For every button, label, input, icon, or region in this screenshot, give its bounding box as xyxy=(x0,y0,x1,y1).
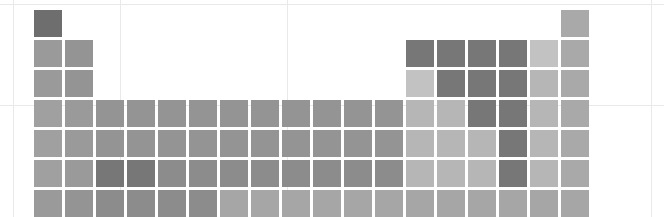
heatmap-cell-te[interactable] xyxy=(499,130,527,157)
heatmap-cell-co[interactable] xyxy=(282,100,310,127)
heatmap-cell-ta[interactable] xyxy=(158,160,186,187)
heatmap-cell-at[interactable] xyxy=(530,160,558,187)
heatmap-cell-v[interactable] xyxy=(158,100,186,127)
heatmap-cell-bi[interactable] xyxy=(468,160,496,187)
heatmap-cell-in[interactable] xyxy=(406,130,434,157)
heatmap-cell-cs[interactable] xyxy=(34,160,62,187)
heatmap-cell-empty xyxy=(406,10,434,37)
heatmap-cell-mn[interactable] xyxy=(220,100,248,127)
heatmap-cell-ba[interactable] xyxy=(65,160,93,187)
heatmap-cell-fl[interactable] xyxy=(437,190,465,217)
heatmap-cell-mc[interactable] xyxy=(468,190,496,217)
heatmap-cell-os[interactable] xyxy=(251,160,279,187)
heatmap-cell-rb[interactable] xyxy=(34,130,62,157)
heatmap-cell-mo[interactable] xyxy=(189,130,217,157)
heatmap-cell-la[interactable] xyxy=(96,160,124,187)
heatmap-cell-n[interactable] xyxy=(468,40,496,67)
heatmap-cell-mg[interactable] xyxy=(65,70,93,97)
heatmap-cell-po[interactable] xyxy=(499,160,527,187)
heatmap-cell-rg[interactable] xyxy=(344,190,372,217)
heatmap-cell-s[interactable] xyxy=(499,70,527,97)
heatmap-cell-zn[interactable] xyxy=(375,100,403,127)
heatmap-cell-empty xyxy=(282,40,310,67)
heatmap-cell-o[interactable] xyxy=(499,40,527,67)
heatmap-cell-ir[interactable] xyxy=(282,160,310,187)
heatmap-cell-li[interactable] xyxy=(34,40,62,67)
heatmap-cell-tc[interactable] xyxy=(220,130,248,157)
heatmap-cell-i[interactable] xyxy=(530,130,558,157)
heatmap-cell-pt[interactable] xyxy=(313,160,341,187)
heatmap-cell-kr[interactable] xyxy=(561,100,589,127)
heatmap-cell-fe[interactable] xyxy=(251,100,279,127)
heatmap-cell-fr[interactable] xyxy=(34,190,62,217)
heatmap-cell-re[interactable] xyxy=(220,160,248,187)
heatmap-cell-lv[interactable] xyxy=(499,190,527,217)
heatmap-cell-y[interactable] xyxy=(96,130,124,157)
heatmap-cell-au[interactable] xyxy=(344,160,372,187)
heatmap-cell-empty xyxy=(251,10,279,37)
heatmap-cell-sc[interactable] xyxy=(96,100,124,127)
heatmap-cell-ar[interactable] xyxy=(561,70,589,97)
heatmap-cell-empty xyxy=(251,70,279,97)
heatmap-cell-og[interactable] xyxy=(561,190,589,217)
heatmap-cell-rh[interactable] xyxy=(282,130,310,157)
heatmap-cell-w[interactable] xyxy=(189,160,217,187)
heatmap-cell-nb[interactable] xyxy=(158,130,186,157)
heatmap-cell-ga[interactable] xyxy=(406,100,434,127)
heatmap-cell-as[interactable] xyxy=(468,100,496,127)
heatmap-cell-hs[interactable] xyxy=(251,190,279,217)
heatmap-cell-h[interactable] xyxy=(34,10,62,37)
heatmap-cell-na[interactable] xyxy=(34,70,62,97)
heatmap-cell-sr[interactable] xyxy=(65,130,93,157)
guide-line-horizontal-0 xyxy=(0,4,664,5)
heatmap-cell-empty xyxy=(468,10,496,37)
heatmap-cell-ts[interactable] xyxy=(530,190,558,217)
heatmap-cell-cr[interactable] xyxy=(189,100,217,127)
heatmap-cell-cn[interactable] xyxy=(375,190,403,217)
heatmap-cell-ne[interactable] xyxy=(561,40,589,67)
heatmap-cell-sn[interactable] xyxy=(437,130,465,157)
heatmap-cell-empty xyxy=(127,10,155,37)
heatmap-cell-be[interactable] xyxy=(65,40,93,67)
heatmap-cell-cd[interactable] xyxy=(375,130,403,157)
heatmap-cell-pd[interactable] xyxy=(313,130,341,157)
heatmap-cell-ac[interactable] xyxy=(96,190,124,217)
heatmap-cell-sg[interactable] xyxy=(189,190,217,217)
heatmap-cell-c[interactable] xyxy=(437,40,465,67)
heatmap-cell-pb[interactable] xyxy=(437,160,465,187)
heatmap-cell-ru[interactable] xyxy=(251,130,279,157)
heatmap-cell-zr[interactable] xyxy=(127,130,155,157)
heatmap-cell-tl[interactable] xyxy=(406,160,434,187)
heatmap-cell-sb[interactable] xyxy=(468,130,496,157)
heatmap-cell-cu[interactable] xyxy=(344,100,372,127)
heatmap-cell-mt[interactable] xyxy=(282,190,310,217)
heatmap-cell-rf[interactable] xyxy=(127,190,155,217)
heatmap-cell-bh[interactable] xyxy=(220,190,248,217)
heatmap-cell-he[interactable] xyxy=(561,10,589,37)
heatmap-cell-b[interactable] xyxy=(406,40,434,67)
heatmap-cell-xe[interactable] xyxy=(561,130,589,157)
heatmap-cell-nh[interactable] xyxy=(406,190,434,217)
heatmap-cell-ra[interactable] xyxy=(65,190,93,217)
heatmap-cell-ca[interactable] xyxy=(65,100,93,127)
heatmap-cell-se[interactable] xyxy=(499,100,527,127)
heatmap-cell-empty xyxy=(530,10,558,37)
heatmap-cell-hg[interactable] xyxy=(375,160,403,187)
heatmap-cell-db[interactable] xyxy=(158,190,186,217)
heatmap-cell-ds[interactable] xyxy=(313,190,341,217)
heatmap-cell-al[interactable] xyxy=(406,70,434,97)
heatmap-cell-f[interactable] xyxy=(530,40,558,67)
heatmap-cell-k[interactable] xyxy=(34,100,62,127)
heatmap-cell-ni[interactable] xyxy=(313,100,341,127)
heatmap-cell-hf[interactable] xyxy=(127,160,155,187)
heatmap-cell-empty xyxy=(96,40,124,67)
heatmap-cell-rn[interactable] xyxy=(561,160,589,187)
heatmap-cell-cl[interactable] xyxy=(530,70,558,97)
heatmap-cell-ti[interactable] xyxy=(127,100,155,127)
heatmap-cell-ge[interactable] xyxy=(437,100,465,127)
heatmap-cell-br[interactable] xyxy=(530,100,558,127)
heatmap-cell-si[interactable] xyxy=(437,70,465,97)
heatmap-cell-ag[interactable] xyxy=(344,130,372,157)
heatmap-cell-p[interactable] xyxy=(468,70,496,97)
heatmap-cell-empty xyxy=(189,10,217,37)
